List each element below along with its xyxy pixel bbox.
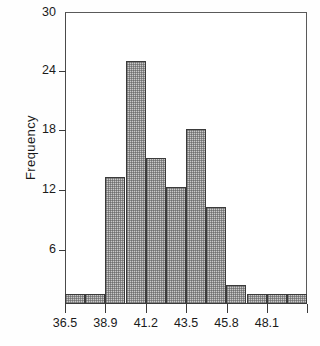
x-tick-mark-45-8 — [227, 304, 228, 313]
y-tick-label-24: 24 — [16, 63, 56, 77]
bar-bin-4[interactable] — [126, 61, 146, 304]
x-tick-label-38-9: 38.9 — [82, 316, 128, 330]
y-axis-label: Frequency — [23, 78, 38, 218]
x-tick-label-43-5: 43.5 — [163, 316, 209, 330]
bar-bin-11[interactable] — [267, 294, 287, 304]
x-tick-label-45-8: 45.8 — [204, 316, 250, 330]
x-tick-label-41-2: 41.2 — [123, 316, 169, 330]
bar-bin-3[interactable] — [105, 177, 125, 304]
bar-bin-1[interactable] — [65, 294, 85, 304]
bar-bin-7[interactable] — [186, 129, 206, 304]
x-tick-label-48-1: 48.1 — [244, 316, 290, 330]
x-tick-mark-36-5 — [65, 304, 66, 313]
y-tick-label-18: 18 — [16, 122, 56, 136]
bar-bin-8[interactable] — [206, 207, 226, 304]
y-tick-label-12: 12 — [16, 182, 56, 196]
x-tick-mark-48-1 — [267, 304, 268, 313]
x-tick-mark-43-5 — [186, 304, 187, 313]
bar-bin-10[interactable] — [247, 294, 267, 304]
bar-bin-9[interactable] — [226, 285, 246, 304]
bar-bin-12[interactable] — [287, 294, 307, 304]
y-tick-label-30: 30 — [16, 5, 56, 19]
x-tick-label-36-5: 36.5 — [42, 316, 88, 330]
histogram-figure: Frequency 30 24 18 12 6 36.5 38.9 41.2 4… — [0, 0, 320, 346]
x-tick-mark-41-2 — [146, 304, 147, 313]
bar-bin-5[interactable] — [146, 158, 166, 304]
y-tick-label-6: 6 — [16, 242, 56, 256]
x-tick-mark-end — [307, 304, 308, 313]
bars-group — [65, 12, 307, 304]
bar-bin-6[interactable] — [166, 187, 186, 304]
bar-bin-2[interactable] — [85, 294, 105, 304]
x-tick-mark-38-9 — [105, 304, 106, 313]
